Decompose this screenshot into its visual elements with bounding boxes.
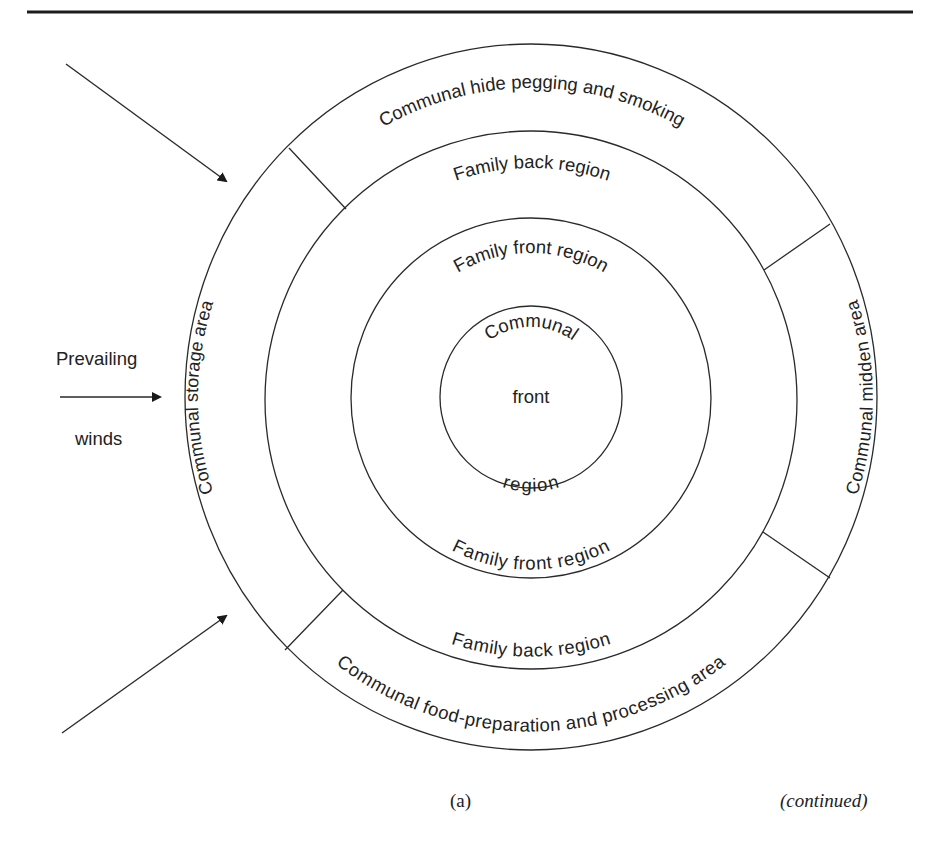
- label-center-region: region: [501, 471, 561, 496]
- label-storage-area: Communal storage area: [182, 297, 218, 497]
- label-winds: winds: [74, 428, 122, 449]
- label-center-communal: Communal: [480, 310, 582, 344]
- concentric-zone-diagram: Communal hide pegging and smoking Commun…: [0, 0, 935, 846]
- label-food-preparation: Communal food-preparation and processing…: [333, 650, 729, 736]
- divider-top-right: [764, 224, 830, 270]
- label-family-front-top: Family front region: [450, 236, 612, 276]
- label-hide-pegging: Communal hide pegging and smoking: [375, 71, 689, 131]
- label-prevailing: Prevailing: [56, 348, 137, 369]
- label-family-front-bottom: Family front region: [450, 535, 613, 574]
- label-family-back-top: Family back region: [451, 151, 614, 185]
- label-family-back-bottom: Family back region: [449, 627, 612, 660]
- wind-arrow-lower: [62, 616, 226, 733]
- label-midden-area: Communal midden area: [841, 297, 876, 497]
- continued-label: (continued): [780, 790, 868, 812]
- divider-bottom-right: [763, 532, 830, 578]
- wind-arrow-upper: [66, 64, 226, 181]
- divider-bottom-left: [285, 590, 343, 650]
- figure-page: Communal hide pegging and smoking Commun…: [0, 0, 935, 846]
- label-center-front: front: [512, 386, 549, 407]
- divider-top-left: [289, 148, 346, 209]
- panel-label: (a): [450, 790, 471, 812]
